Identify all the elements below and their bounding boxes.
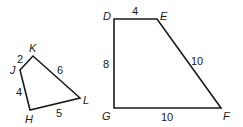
vertex-label-k: K <box>29 42 37 54</box>
side-length-hj: 4 <box>16 86 22 98</box>
vertex-label-j: J <box>9 64 16 76</box>
quadrilateral-defg: D E F G 4 10 10 8 <box>102 5 231 123</box>
side-length-kl: 6 <box>57 64 63 76</box>
vertex-label-f: F <box>223 110 231 122</box>
vertex-label-d: D <box>103 10 111 22</box>
vertex-label-h: H <box>25 113 33 125</box>
vertex-label-l: L <box>83 94 89 106</box>
side-length-de: 4 <box>132 5 138 17</box>
quad-hjkl-outline <box>20 56 80 110</box>
side-length-fg: 10 <box>161 111 173 123</box>
side-length-gd: 8 <box>103 58 109 70</box>
vertex-label-g: G <box>102 110 111 122</box>
side-length-lh: 5 <box>56 107 62 119</box>
diagram-canvas: K J L H 2 6 5 4 D E F G 4 10 10 8 <box>0 0 243 127</box>
quad-defg-outline <box>114 19 221 108</box>
side-length-ef: 10 <box>191 55 203 67</box>
vertex-label-e: E <box>160 10 168 22</box>
side-length-jk: 2 <box>17 53 23 65</box>
quadrilateral-hjkl: K J L H 2 6 5 4 <box>9 42 89 125</box>
